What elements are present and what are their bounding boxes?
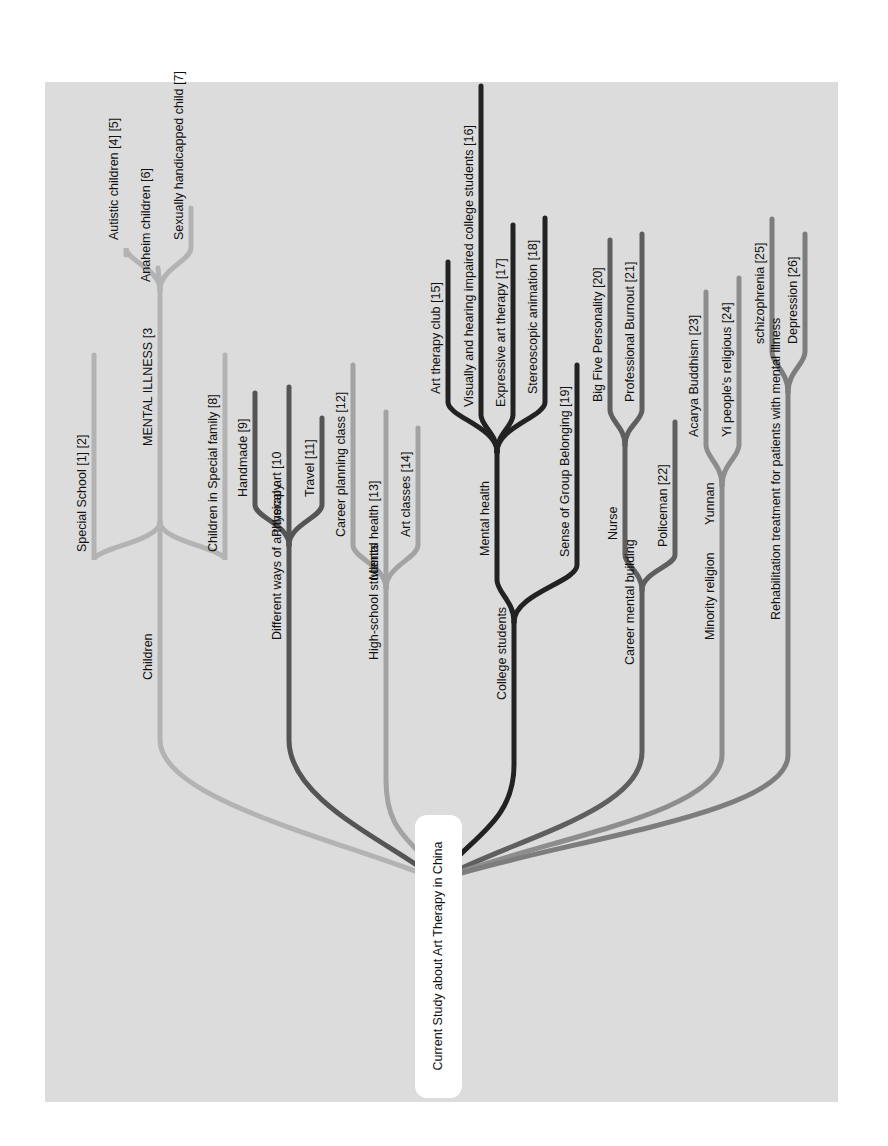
node-label: Children [141, 633, 155, 680]
node-label: Mental health [13] [367, 481, 381, 580]
node-label: Professional Burnout [21] [623, 262, 637, 402]
branch-edge [497, 452, 514, 622]
node-label: Depression [26] [786, 256, 800, 344]
node-label: Yi people's religious [24] [720, 302, 734, 437]
root-node-label: Current Study about Art Therapy in China [431, 841, 445, 1070]
node-label: schizophrenia [25] [753, 243, 767, 344]
branch-lines [94, 86, 805, 880]
node-label: Career planning class [12] [334, 392, 348, 537]
node-label: Yunnan [703, 483, 717, 525]
node-label: Anaheim children [6] [139, 168, 153, 282]
node-label: Special School [1] [2] [75, 435, 89, 552]
node-label: Minority religion [703, 552, 717, 640]
node-label: Visually and hearing impaired college st… [462, 125, 476, 407]
node-label: Stereoscopic animation [18] [526, 240, 540, 394]
node-label: Sexually handicapped child [7] [172, 71, 186, 240]
node-label: College students [495, 607, 509, 700]
node-label: Expressive art therapy [17] [494, 258, 508, 407]
node-label: Travel [11] [303, 439, 317, 497]
node-label: Art therapy club [15] [429, 282, 443, 394]
node-label: Nurse [606, 507, 620, 540]
node-label: Sense of Group Belonging [19] [558, 386, 572, 557]
node-label: Policeman [22] [656, 464, 670, 547]
trunk-edge [438, 392, 788, 880]
node-label: Career mental building [623, 539, 637, 665]
node-label: Rehabilitation treatment for patients wi… [769, 318, 783, 620]
node-label: Mental health [478, 481, 492, 556]
node-label: Handmade [9] [236, 418, 250, 497]
node-label: Autistic children [4] [5] [107, 118, 121, 240]
node-label: Acarya Buddhism [23] [687, 315, 701, 437]
node-label: MENTAL ILLNESS [3 [141, 328, 155, 446]
node-label: Big Five Personality [20] [591, 267, 605, 402]
branch-labels: ChildrenSpecial School [1] [2]MENTAL ILL… [75, 71, 800, 700]
node-label: Children in Special family [8] [206, 394, 220, 552]
node-label: Physical art [10 [270, 451, 284, 537]
node-label: Art classes [14] [399, 452, 413, 537]
